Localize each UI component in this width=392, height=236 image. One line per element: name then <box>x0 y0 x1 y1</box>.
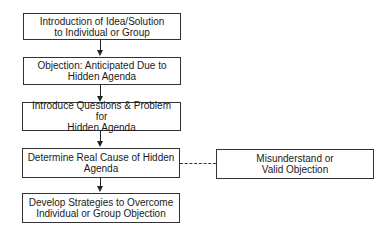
dashed-connector <box>180 163 216 164</box>
arrow-down-icon <box>97 50 103 56</box>
side-misunderstand-box: Misunderstand or Valid Objection <box>216 149 374 179</box>
arrow-down-icon <box>97 186 103 192</box>
step-introduction-box: Introduction of Idea/Solution to Individ… <box>23 13 181 40</box>
step-introduce-questions-box: Introduce Questions & Problem for Hidden… <box>22 102 181 131</box>
step-objection-box: Objection: Anticipated Due to Hidden Age… <box>23 57 181 85</box>
arrow-down-icon <box>97 141 103 147</box>
step-develop-strategies-box: Develop Strategies to Overcome Individua… <box>22 193 180 223</box>
step-determine-cause-box: Determine Real Cause of Hidden Agenda <box>22 148 180 178</box>
